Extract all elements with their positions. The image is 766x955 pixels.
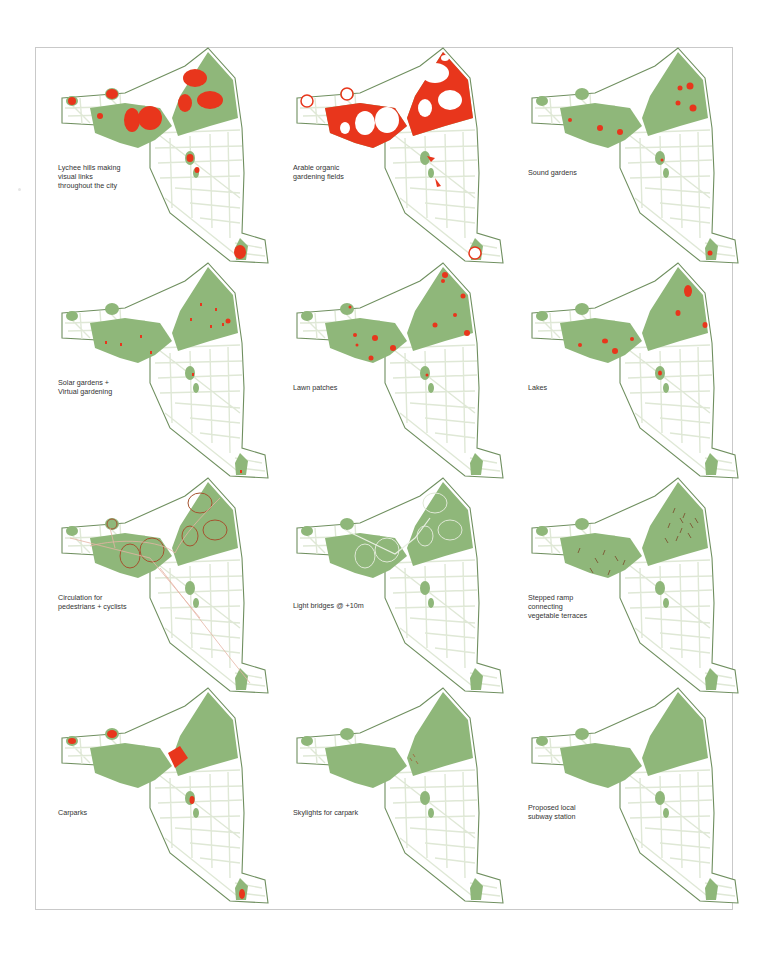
district-outline <box>297 48 503 263</box>
pocket-park-east-1 <box>655 581 665 595</box>
pocket-park-east-1 <box>420 366 430 380</box>
panel-caption: Proposed local subway station <box>528 803 576 821</box>
panel-caption: Circulation for pedestrians + cyclists <box>58 593 127 611</box>
pocket-park-east-2 <box>193 808 199 818</box>
pocket-park-west <box>66 526 78 536</box>
district-map <box>520 688 740 903</box>
district-map <box>520 48 740 263</box>
district-outline <box>297 478 503 693</box>
panel-caption: Stepped ramp connecting vegetable terrac… <box>528 593 587 620</box>
district-map <box>520 478 740 693</box>
map-panel-solar-gardens: Solar gardens + Virtual gardening <box>50 263 270 478</box>
pocket-park-east-1 <box>655 791 665 805</box>
district-map <box>50 263 270 478</box>
pocket-park-north <box>575 518 589 530</box>
map-panel-circulation: Circulation for pedestrians + cyclists <box>50 478 270 693</box>
pocket-park-north <box>105 303 119 315</box>
map-panel-subway-station: Proposed local subway station <box>520 688 740 903</box>
pocket-park-north <box>340 518 354 530</box>
district-map <box>285 48 505 263</box>
pocket-park-west <box>301 736 313 746</box>
pocket-park-east-2 <box>663 383 669 393</box>
district-outline <box>62 48 268 263</box>
map-panel-lawn-patches: Lawn patches <box>285 263 505 478</box>
district-map <box>50 48 270 263</box>
pocket-park-east-2 <box>428 383 434 393</box>
pocket-park-north <box>340 728 354 740</box>
panel-caption: Sound gardens <box>528 168 577 177</box>
pocket-park-east-2 <box>193 598 199 608</box>
district-outline <box>532 478 738 693</box>
panel-caption: Lakes <box>528 383 547 392</box>
district-outline <box>532 263 738 478</box>
pocket-park-east-1 <box>655 151 665 165</box>
panel-caption: Lawn patches <box>293 383 337 392</box>
map-panel-lychee-hills: Lychee hills making visual links through… <box>50 48 270 263</box>
pocket-park-west <box>301 526 313 536</box>
pocket-park-north <box>575 88 589 100</box>
pocket-park-west <box>66 311 78 321</box>
map-panel-arable-fields: Arable organic gardening fields <box>285 48 505 263</box>
pocket-park-east-2 <box>663 598 669 608</box>
district-map <box>50 478 270 693</box>
district-map <box>285 263 505 478</box>
district-outline <box>532 688 738 903</box>
district-outline <box>62 478 268 693</box>
pocket-park-east-1 <box>420 791 430 805</box>
district-outline <box>62 263 268 478</box>
map-panel-sound-gardens: Sound gardens <box>520 48 740 263</box>
pocket-park-east-2 <box>428 808 434 818</box>
map-panel-light-bridges: Light bridges @ +10m <box>285 478 505 693</box>
district-map <box>50 688 270 903</box>
pocket-park-west <box>536 736 548 746</box>
map-panel-skylights: Skylights for carpark <box>285 688 505 903</box>
panel-caption: Lychee hills making visual links through… <box>58 163 120 190</box>
district-outline <box>297 263 503 478</box>
pocket-park-east-2 <box>428 168 434 178</box>
pocket-park-north <box>340 303 354 315</box>
pocket-park-west <box>536 526 548 536</box>
panel-caption: Light bridges @ +10m <box>293 601 364 610</box>
district-map <box>285 478 505 693</box>
district-outline <box>532 48 738 263</box>
pocket-park-east-2 <box>663 808 669 818</box>
district-map <box>520 263 740 478</box>
pocket-park-east-2 <box>428 598 434 608</box>
map-panel-stepped-ramp: Stepped ramp connecting vegetable terrac… <box>520 478 740 693</box>
scan-mark <box>18 188 21 191</box>
panel-caption: Carparks <box>58 808 87 817</box>
pocket-park-north <box>575 728 589 740</box>
pocket-park-east-2 <box>193 383 199 393</box>
panel-caption: Arable organic gardening fields <box>293 163 344 181</box>
pocket-park-north <box>575 303 589 315</box>
district-map <box>285 688 505 903</box>
panel-caption: Skylights for carpark <box>293 808 358 817</box>
district-outline <box>297 688 503 903</box>
pocket-park-west <box>536 311 548 321</box>
pocket-park-west <box>301 311 313 321</box>
district-outline <box>62 688 268 903</box>
pocket-park-east-2 <box>663 168 669 178</box>
pocket-park-east-1 <box>420 581 430 595</box>
panel-caption: Solar gardens + Virtual gardening <box>58 378 112 396</box>
map-panel-lakes: Lakes <box>520 263 740 478</box>
pocket-park-east-1 <box>185 581 195 595</box>
map-panel-carparks: Carparks <box>50 688 270 903</box>
pocket-park-west <box>536 96 548 106</box>
